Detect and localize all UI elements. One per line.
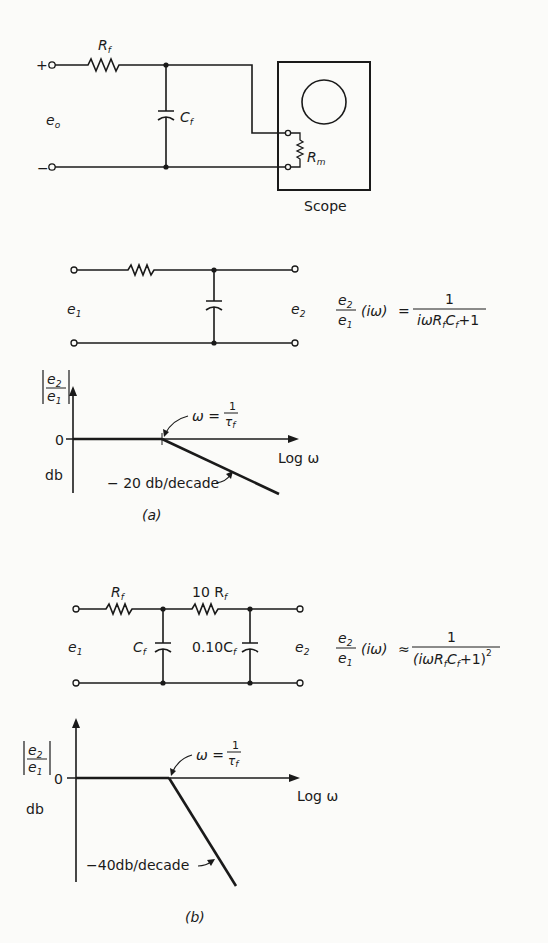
terminal-icon	[292, 340, 298, 346]
plus-terminal-label: +	[36, 57, 48, 73]
shunt-capacitor-icon	[206, 270, 222, 343]
tf-relation: ≈	[398, 641, 410, 657]
tf-num: e2	[338, 292, 353, 310]
scope-terminal-icon	[285, 130, 290, 135]
arrowhead-icon	[170, 768, 176, 776]
x-axis-arrow-icon	[288, 435, 299, 443]
zero-tick-label: 0	[54, 771, 63, 787]
tf-den: e1	[338, 650, 352, 668]
scope-box	[278, 62, 370, 190]
tf-rhs-den: (iωRfCf+1)2	[413, 648, 492, 669]
tf-rhs-num: 1	[445, 291, 454, 307]
plus-terminal-icon	[49, 62, 55, 68]
terminal-icon	[71, 267, 77, 273]
terminal-icon	[297, 680, 303, 686]
y-axis-arrow-icon	[72, 718, 80, 728]
transfer-function-a: e2 e1 (iω) = 1 iωRfCf+1	[336, 291, 486, 330]
meter-resistor-icon	[291, 133, 303, 167]
top-circuit: + − Rf Cf eo Rm Scope	[36, 37, 370, 214]
break-pointer-icon	[172, 755, 192, 773]
break-den: τf	[225, 415, 237, 430]
tf-rhs-num: 1	[447, 629, 456, 645]
circuit-b: Rf 10 Rf Cf 0.10Cf e1 e2 e2 e1 (iω) ≈ 1 …	[68, 584, 500, 686]
c2-label: 0.10Cf	[192, 639, 238, 657]
capacitor-icon	[158, 65, 174, 167]
x-axis-label: Log ω	[278, 450, 319, 466]
rf-label: Rf	[98, 37, 113, 55]
e2-label: e2	[291, 301, 306, 319]
break-omega-label: ω =	[192, 408, 220, 424]
tf-arg: (iω)	[361, 303, 388, 319]
break-num: 1	[232, 739, 239, 752]
caption-b: (b)	[185, 909, 205, 925]
capacitor-1-icon	[155, 609, 171, 683]
rm-label: Rm	[307, 149, 326, 167]
r1-label: Rf	[111, 584, 126, 602]
tf-den: e1	[338, 312, 352, 330]
break-pointer-icon	[165, 416, 188, 434]
tf-arg: (iω)	[361, 641, 388, 657]
break-omega-label: ω =	[196, 747, 224, 763]
circuit-a: e1 e2 e2 e1 (iω) = 1 iωRfCf+1	[67, 265, 486, 346]
bode-plot-b: e2 e1 0 db Log ω ω = 1 τf −40db/decade (…	[24, 718, 338, 925]
capacitor-2-icon	[242, 609, 258, 683]
c1-label: Cf	[133, 639, 148, 657]
e1-label: e1	[68, 639, 82, 657]
arrowhead-icon	[226, 471, 233, 479]
scope-screen-icon	[302, 80, 346, 124]
tf-num: e2	[338, 630, 353, 648]
arrowhead-icon	[163, 429, 169, 437]
tf-rhs-den: iωRfCf+1	[417, 312, 479, 330]
break-num: 1	[229, 400, 236, 413]
e1-label: e1	[67, 301, 81, 319]
terminal-icon	[71, 340, 77, 346]
slope-label: − 20 db/decade	[107, 475, 219, 491]
terminal-icon	[297, 606, 303, 612]
figure-canvas: + − Rf Cf eo Rm Scope e1 e2	[0, 0, 548, 943]
scope-label: Scope	[304, 198, 347, 214]
y-axis-arrow-icon	[69, 386, 77, 396]
r2-label: 10 Rf	[192, 584, 229, 602]
scope-terminal-icon	[285, 164, 290, 169]
y-label-num: e2	[47, 371, 62, 389]
db-unit-label: db	[26, 801, 44, 817]
arrowhead-icon	[207, 859, 215, 866]
break-den: τf	[228, 754, 240, 769]
x-axis-arrow-icon	[289, 774, 300, 782]
transfer-function-b: e2 e1 (iω) ≈ 1 (iωRfCf+1)2	[336, 629, 500, 669]
slope-label: −40db/decade	[86, 857, 189, 873]
top-wire-with-resistor-icon	[55, 59, 285, 133]
series-resistors-icon	[79, 604, 297, 614]
bode-plot-a: e2 e1 0 db Log ω ω = 1 τf − 20 db/decade…	[43, 370, 319, 523]
y-label-num: e2	[28, 742, 43, 760]
minus-terminal-icon	[49, 164, 55, 170]
e2-label: e2	[295, 639, 310, 657]
zero-tick-label: 0	[55, 432, 64, 448]
tf-relation: =	[398, 303, 410, 319]
caption-a: (a)	[142, 507, 162, 523]
db-unit-label: db	[45, 467, 63, 483]
terminal-icon	[292, 266, 298, 272]
eo-label: eo	[46, 112, 61, 130]
y-label-den: e1	[47, 388, 61, 406]
terminal-icon	[73, 606, 79, 612]
minus-terminal-label: −	[37, 160, 49, 176]
y-label-den: e1	[28, 759, 42, 777]
x-axis-label: Log ω	[297, 788, 338, 804]
cf-label: Cf	[180, 109, 195, 127]
series-resistor-icon	[77, 265, 292, 275]
terminal-icon	[73, 680, 79, 686]
